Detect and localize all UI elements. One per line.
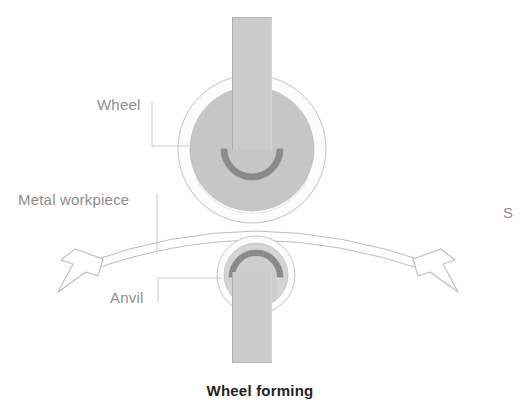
arrow-left-outline [58, 249, 103, 292]
label-metal-workpiece: Metal workpiece [18, 192, 129, 207]
wheel-forming-diagram: Wheel Metal workpiece Anvil S Wheel form… [0, 0, 520, 410]
arrow-left [58, 249, 103, 292]
anvil-leader-line [158, 278, 222, 302]
label-cutoff-right-edge: S [503, 205, 513, 220]
arrow-right-outline [413, 249, 458, 292]
figure-caption: Wheel forming [0, 383, 520, 398]
arrow-right [413, 249, 458, 292]
anvil-shaft [232, 272, 272, 363]
label-anvil: Anvil [110, 290, 144, 305]
wheel-assembly [178, 17, 326, 223]
anvil-assembly [217, 236, 295, 363]
wheel-shaft [232, 17, 272, 150]
label-wheel: Wheel [97, 97, 141, 112]
